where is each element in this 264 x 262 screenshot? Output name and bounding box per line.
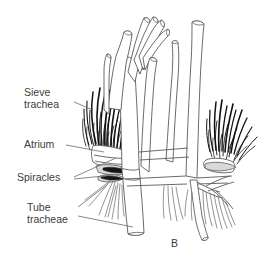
figure-panel-b: Sieve trachea Atrium Spiracles Tube trac…: [0, 0, 264, 262]
tube-trachea-center-left: [141, 58, 157, 172]
label-sieve-trachea-line1: Sieve: [24, 86, 50, 98]
tracheal-system-illustration: Sieve trachea Atrium Spiracles Tube trac…: [0, 0, 264, 262]
tube-tracheae-right-branches: [185, 176, 235, 240]
tube-tracheae-center-fine: [163, 186, 183, 221]
main-trachea-trunk-right: [186, 21, 204, 178]
tube-tracheae-left-fine: [85, 180, 124, 219]
label-sieve-trachea-line2: trachea: [24, 98, 59, 110]
leader-sieve-trachea: [74, 102, 93, 110]
label-spiracles: Spiracles: [17, 171, 60, 183]
label-atrium: Atrium: [24, 138, 55, 150]
leader-tube-tracheae-lower: [78, 216, 133, 227]
tube-trachea-center: [166, 41, 179, 162]
label-tube-tracheae-line1: Tube: [27, 201, 51, 213]
label-tube-tracheae-line2: tracheae: [27, 213, 68, 225]
atrium-right: [204, 158, 236, 173]
figure-letter: B: [171, 237, 178, 249]
sieve-trachea-right-bristles: [207, 100, 257, 164]
leader-tube-tracheae-upper: [78, 185, 107, 207]
